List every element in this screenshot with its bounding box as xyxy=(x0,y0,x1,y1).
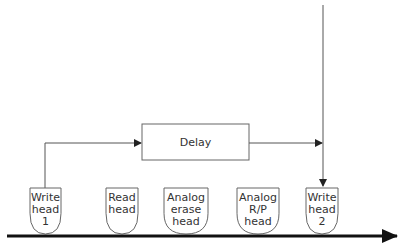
head-label-line: 1 xyxy=(42,215,49,228)
read-head: Readhead xyxy=(106,188,138,234)
analog-erase-head: Analogerasehead xyxy=(164,188,208,234)
delay-label: Delay xyxy=(180,136,212,149)
delay-box: Delay xyxy=(142,124,249,160)
head-label-line: 2 xyxy=(319,215,326,228)
write-head-2: Writehead2 xyxy=(306,188,338,234)
heads-group: Writehead1ReadheadAnalogeraseheadAnalogR… xyxy=(30,188,338,234)
tape-delay-diagram: Delay Writehead1ReadheadAnalogeraseheadA… xyxy=(0,0,404,247)
analog-rp-head: AnalogR/Phead xyxy=(237,188,279,234)
head-label-line: head xyxy=(108,203,135,216)
head-label-line: head xyxy=(244,215,271,228)
write-head-1: Writehead1 xyxy=(30,188,61,234)
head-label-line: head xyxy=(172,215,199,228)
connector-write-head-1-to-delay xyxy=(45,143,141,188)
